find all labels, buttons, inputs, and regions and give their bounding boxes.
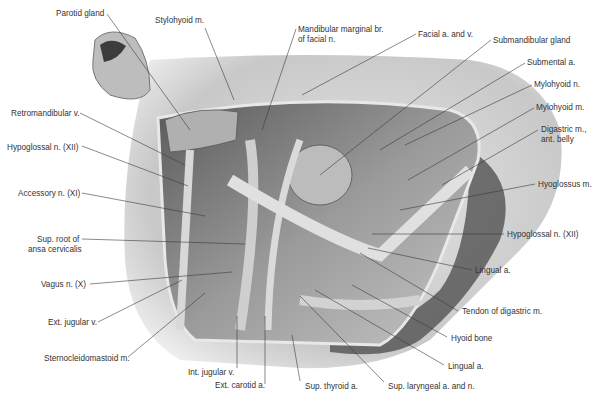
label-tendon-of-digastric: Tendon of digastric m. [462, 307, 542, 317]
label-hypoglossal-n-left: Hypoglossal n. (XII) [7, 143, 78, 153]
label-sternocleidomastoid-m: Sternocleidomastoid m. [44, 354, 130, 364]
label-hyoid-bone: Hyoid bone [451, 334, 492, 344]
label-digastric-m: Digastric m., [541, 125, 587, 135]
hyoid-shape [300, 300, 420, 305]
label-int-jugular-v: Int. jugular v. [188, 368, 234, 378]
label-sup-laryngeal: Sup. laryngeal a. and n. [388, 382, 475, 392]
label-parotid-gland: Parotid gland [56, 9, 104, 19]
label-retromandibular-v: Retromandibular v. [11, 109, 80, 119]
label-digastric-m-2: ant. belly [541, 135, 574, 145]
label-mandibular-marginal-br-2: of facial n. [298, 35, 335, 45]
label-hypoglossal-n-right: Hypoglossal n. (XII) [507, 230, 578, 240]
label-ext-carotid-a: Ext. carotid a. [215, 381, 265, 391]
label-ext-jugular-v: Ext. jugular v. [48, 318, 97, 328]
label-submental-a: Submental a. [527, 58, 575, 68]
label-sup-root-ansa-2: ansa cervicalis [28, 245, 82, 255]
label-mylohyoid-m: Mylohyoid m. [536, 103, 584, 113]
label-lingual-a-lower: Lingual a. [448, 362, 484, 372]
dissection-drawing [0, 0, 592, 396]
label-facial-a-and-v: Facial a. and v. [418, 30, 473, 40]
label-sup-thyroid-a: Sup. thyroid a. [305, 382, 358, 392]
label-vagus-n: Vagus n. (X) [41, 280, 86, 290]
label-lingual-a-upper: Lingual a. [475, 266, 511, 276]
anatomical-illustration: Parotid gland Stylohyoid m. Mandibular m… [0, 0, 592, 396]
label-hyoglossus-m: Hyoglossus m. [538, 180, 592, 190]
label-mandibular-marginal-br: Mandibular marginal br. [298, 25, 384, 35]
ear [93, 32, 150, 99]
label-accessory-n: Accessory n. (XI) [18, 189, 80, 199]
label-submandibular-gland: Submandibular gland [493, 36, 570, 46]
label-stylohyoid-m: Stylohyoid m. [155, 16, 204, 26]
label-mylohyoid-n: Mylohyoid n. [534, 80, 580, 90]
label-sup-root-ansa: Sup. root of [37, 235, 79, 245]
